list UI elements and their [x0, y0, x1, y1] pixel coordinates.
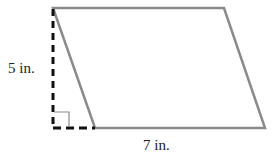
parallelogram [53, 8, 265, 128]
right-angle-marker [54, 112, 69, 127]
height-label: 5 in. [8, 60, 35, 76]
parallelogram-diagram: 5 in. 7 in. [0, 0, 277, 157]
base-label: 7 in. [143, 137, 170, 153]
